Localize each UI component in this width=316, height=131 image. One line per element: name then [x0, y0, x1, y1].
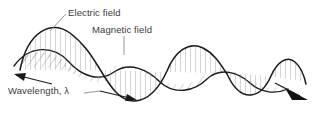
wavelength-label: Wavelength, λ	[8, 85, 69, 96]
wavelength-leader-line	[84, 91, 100, 93]
magnetic-field-label: Magnetic field	[92, 24, 152, 35]
electric-field-label: Electric field	[68, 7, 121, 18]
em-wave-figure: Electric field Magnetic field Wavelength…	[0, 0, 316, 131]
wavelength-arrow-left-head	[14, 73, 26, 81]
em-wave-svg	[0, 0, 316, 131]
electric-area-5	[270, 60, 305, 82]
electric-area-1	[20, 29, 100, 70]
